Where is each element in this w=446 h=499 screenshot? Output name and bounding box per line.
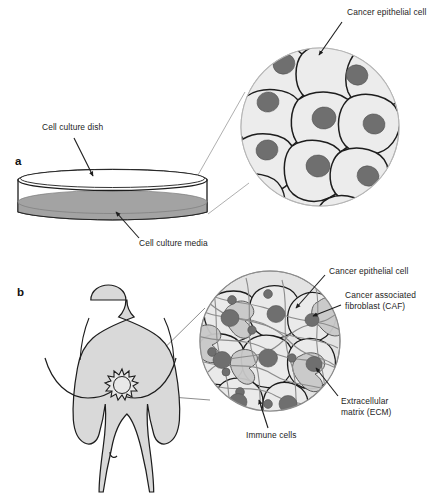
panel-letter-a: a xyxy=(15,155,21,167)
label-cancer-associated-fibroblast-line2: fibroblast (CAF) xyxy=(345,301,405,312)
label-cancer-associated-fibroblast-line1: Cancer associated xyxy=(345,290,416,301)
panel-letter-b: b xyxy=(17,286,24,298)
label-extracellular-matrix-line1: Extracellular xyxy=(341,396,388,407)
cell-culture-dish xyxy=(18,170,207,220)
label-immune-cells: Immune cells xyxy=(246,430,297,440)
figure-root: a b Cancer epithelial cell Cell culture … xyxy=(0,0,446,499)
label-cell-culture-media: Cell culture media xyxy=(139,238,208,248)
label-extracellular-matrix-line2: matrix (ECM) xyxy=(341,407,392,418)
label-cell-culture-dish: Cell culture dish xyxy=(42,122,103,132)
figure-canvas xyxy=(0,0,446,499)
label-cancer-epithelial-cell: Cancer epithelial cell xyxy=(347,7,426,17)
label-cancer-epithelial-cell-b: Cancer epithelial cell xyxy=(329,266,408,276)
